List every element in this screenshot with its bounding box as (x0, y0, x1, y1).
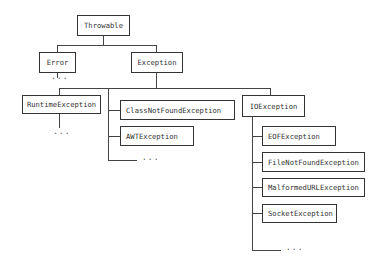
connector (252, 136, 262, 137)
connector (103, 36, 104, 45)
connector (156, 73, 157, 88)
connector (59, 113, 60, 128)
ellipsis-exception-children: ... (142, 153, 159, 162)
connector (108, 136, 120, 137)
node-error: Error (39, 52, 76, 73)
exception-hierarchy-diagram: Throwable Error Exception RuntimeExcepti… (0, 0, 382, 262)
connector (270, 88, 271, 95)
node-socket-exception: SocketException (262, 204, 337, 223)
connector (252, 187, 262, 188)
ellipsis-io-children: ... (286, 243, 303, 252)
connector (156, 45, 157, 52)
node-malformed-url-exception: MalformedURLException (262, 178, 365, 197)
connector (108, 88, 109, 161)
node-eof-exception: EOFException (262, 126, 336, 146)
node-awt-exception: AWTException (120, 126, 194, 146)
node-class-not-found-exception: ClassNotFoundException (120, 100, 235, 120)
connector (252, 250, 281, 251)
connector (57, 45, 157, 46)
connector (108, 110, 120, 111)
connector (108, 160, 137, 161)
connector (59, 88, 271, 89)
node-throwable: Throwable (77, 15, 130, 36)
ellipsis-runtime-children: ... (53, 127, 70, 136)
node-file-not-found-exception: FileNotFoundException (262, 152, 365, 172)
node-io-exception: IOException (242, 95, 305, 117)
connector (252, 162, 262, 163)
node-exception: Exception (131, 52, 183, 73)
ellipsis-error-children: ... (51, 72, 68, 81)
node-runtime-exception: RuntimeException (22, 95, 101, 114)
connector (59, 88, 60, 95)
connector (57, 45, 58, 52)
connector (252, 213, 262, 214)
